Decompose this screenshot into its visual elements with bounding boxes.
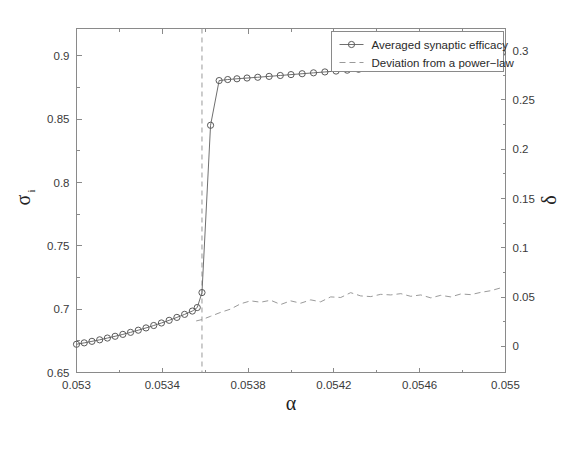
legend-label: Deviation from a power−law xyxy=(372,57,515,69)
x-tick-label: 0.055 xyxy=(491,379,520,391)
y-tick-label-left: 0.7 xyxy=(54,303,70,315)
series-path xyxy=(196,287,502,321)
y-tick-label-left: 0.85 xyxy=(47,113,69,125)
y-tick-label-left: 0.75 xyxy=(47,240,69,252)
series-path xyxy=(77,53,503,345)
plot-frame xyxy=(77,29,506,373)
y-tick-label-right: 0.25 xyxy=(513,94,535,106)
x-tick-label: 0.0542 xyxy=(316,379,351,391)
chart-legend: Averaged synaptic efficacyDeviation from… xyxy=(332,32,515,72)
y-tick-label-right: 0.2 xyxy=(513,143,529,155)
x-axis-label: α xyxy=(286,392,297,414)
y-tick-label-left: 0.65 xyxy=(47,367,69,379)
y-tick-label-left: 0.9 xyxy=(54,50,70,62)
data-series-group xyxy=(73,29,505,373)
x-tick-label: 0.0538 xyxy=(231,379,266,391)
y-tick-label-right: 0.15 xyxy=(513,193,535,205)
y-axis-label-right: δ xyxy=(538,195,560,204)
y-axis-label-left: σ xyxy=(12,194,34,205)
y-tick-label-right: 0.05 xyxy=(513,291,535,303)
legend-label: Averaged synaptic efficacy xyxy=(372,39,509,51)
y-tick-label-right: 0.1 xyxy=(513,242,529,254)
y-tick-label-right: 0.3 xyxy=(513,45,529,57)
y-tick-label-right: 0 xyxy=(513,340,519,352)
chart-figure: 0.0530.05340.05380.05420.05460.0550.650.… xyxy=(0,0,582,456)
y-axis-label-left-subscript: i xyxy=(25,189,37,192)
x-tick-label: 0.0534 xyxy=(145,379,181,391)
x-tick-label: 0.053 xyxy=(62,379,91,391)
y-tick-label-left: 0.8 xyxy=(54,177,70,189)
chart-canvas: 0.0530.05340.05380.05420.05460.0550.650.… xyxy=(0,0,582,456)
axis-labels-group: ασiδ xyxy=(12,189,560,414)
x-tick-label: 0.0546 xyxy=(402,379,437,391)
